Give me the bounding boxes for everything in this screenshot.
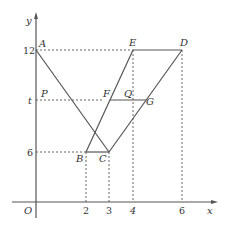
- segment-AC: [36, 50, 109, 152]
- y-tick-t: t: [28, 95, 32, 106]
- origin-label: O: [24, 205, 32, 216]
- y-axis-arrow-icon: [34, 12, 38, 19]
- segments: [36, 50, 182, 152]
- x-tick-2: 2: [83, 205, 89, 216]
- x-tick-6: 6: [179, 205, 185, 216]
- segment-BE: [86, 50, 133, 152]
- x-tick-4: 4: [129, 205, 136, 216]
- coordinate-diagram: y x O 12 t 6 2 3 4 6 A E D P F Q G B C: [0, 0, 229, 225]
- y-tick-12: 12: [23, 45, 35, 56]
- point-label-A: A: [38, 38, 46, 49]
- x-tick-3: 3: [106, 205, 112, 216]
- point-label-D: D: [179, 37, 188, 48]
- x-axis-label: x: [207, 205, 213, 216]
- y-axis-label: y: [25, 15, 32, 26]
- y-tick-6: 6: [27, 147, 33, 158]
- point-label-G: G: [146, 96, 154, 107]
- x-axis-arrow-icon: [211, 200, 218, 204]
- point-label-B: B: [75, 153, 83, 164]
- point-label-Q: Q: [124, 88, 132, 99]
- point-label-F: F: [102, 88, 111, 99]
- dashed-guides: [36, 50, 182, 202]
- point-label-C: C: [99, 153, 107, 164]
- point-label-P: P: [40, 88, 48, 99]
- point-label-E: E: [128, 37, 137, 48]
